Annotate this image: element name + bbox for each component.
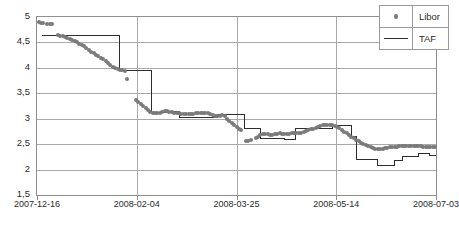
legend-marker-dot-icon bbox=[380, 6, 413, 27]
x-tick-label: 2008-05-14 bbox=[313, 199, 359, 209]
taf-step-line bbox=[37, 17, 438, 197]
y-tick-label: 2 bbox=[0, 164, 30, 174]
chart-legend: Libor TAF bbox=[379, 5, 449, 50]
y-tick-label: 1,5 bbox=[0, 189, 30, 199]
y-tick-label: 4 bbox=[0, 62, 30, 72]
y-tick-label: 5 bbox=[0, 11, 30, 21]
y-tick-label: 2,5 bbox=[0, 138, 30, 148]
x-tick-label: 2008-07-03 bbox=[413, 199, 459, 209]
legend-marker-line-icon bbox=[380, 28, 413, 49]
legend-item-libor: Libor bbox=[380, 6, 448, 27]
legend-item-taf: TAF bbox=[380, 27, 448, 49]
libor-data-point bbox=[125, 77, 129, 81]
plot-area bbox=[36, 16, 437, 196]
libor-data-point bbox=[249, 138, 253, 142]
y-tick-label: 3,5 bbox=[0, 87, 30, 97]
x-tick-label: 2008-03-25 bbox=[213, 199, 259, 209]
series-layer bbox=[37, 17, 436, 195]
libor-data-point bbox=[123, 69, 127, 73]
x-tick-label: 2008-02-04 bbox=[114, 199, 160, 209]
libor-data-point bbox=[433, 145, 437, 149]
libor-data-point bbox=[50, 22, 54, 26]
x-tick-label: 2007-12-16 bbox=[14, 199, 60, 209]
y-tick-label: 4,5 bbox=[0, 36, 30, 46]
legend-label-libor: Libor bbox=[413, 12, 448, 22]
legend-label-taf: TAF bbox=[413, 34, 444, 44]
libor-data-point bbox=[239, 128, 243, 132]
y-tick-label: 3 bbox=[0, 113, 30, 123]
